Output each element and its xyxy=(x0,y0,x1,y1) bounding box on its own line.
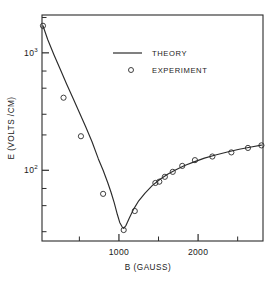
experiment-point xyxy=(61,95,66,100)
experiment-point xyxy=(78,134,83,139)
figure-container: 103102 10002000 B (GAUSS) E (VOLTS /CM) … xyxy=(0,0,276,284)
legend: THEORY EXPERIMENT xyxy=(113,49,207,75)
x-tick-label: 1000 xyxy=(109,247,129,257)
legend-label-experiment: EXPERIMENT xyxy=(152,66,207,75)
x-axis-tick-labels: 10002000 xyxy=(109,247,208,257)
semilog-plot: 103102 10002000 B (GAUSS) E (VOLTS /CM) … xyxy=(0,0,276,284)
legend-circle-swatch xyxy=(129,68,134,73)
y-axis-ticks xyxy=(42,17,49,231)
experiment-point xyxy=(101,191,106,196)
y-axis-title: E (VOLTS /CM) xyxy=(7,96,16,159)
x-axis-title: B (GAUSS) xyxy=(125,263,171,272)
x-tick-label: 2000 xyxy=(188,247,208,257)
y-tick-label: 102 xyxy=(24,163,38,175)
x-axis-ticks xyxy=(79,234,237,241)
y-axis-tick-labels: 103102 xyxy=(24,46,38,175)
y-tick-label: 103 xyxy=(24,46,38,58)
legend-label-theory: THEORY xyxy=(152,49,187,58)
